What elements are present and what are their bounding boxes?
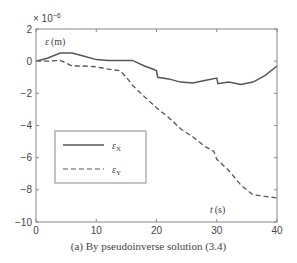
x-tick-label: 20 (151, 225, 163, 236)
plot-area-frame (36, 29, 277, 222)
x-tick-label: 40 (271, 225, 283, 236)
chart: 01020304020−2−4−6−8−10 × 10−6 ε(m) t(s) … (0, 0, 297, 263)
figure-caption: (a) By pseudoinverse solution (3.4) (0, 240, 297, 252)
legend-box (55, 131, 146, 183)
x-tick-label: 0 (33, 225, 39, 236)
series-line-ex (36, 53, 277, 84)
legend: εX εY (55, 131, 146, 183)
y-tick-label: −4 (21, 120, 33, 131)
y-exponent: × 10−6 (33, 12, 61, 24)
y-axis-label: ε(m) (45, 36, 65, 48)
x-tick-label: 30 (211, 225, 223, 236)
x-tick-label: 10 (91, 225, 103, 236)
y-tick-label: −6 (21, 152, 33, 163)
y-tick-label: −2 (21, 88, 33, 99)
y-tick-label: 2 (26, 24, 32, 35)
y-tick-label: 0 (26, 56, 32, 67)
x-axis-label: t(s) (210, 204, 225, 216)
y-tick-label: −10 (15, 217, 32, 228)
y-tick-label: −8 (21, 184, 33, 195)
